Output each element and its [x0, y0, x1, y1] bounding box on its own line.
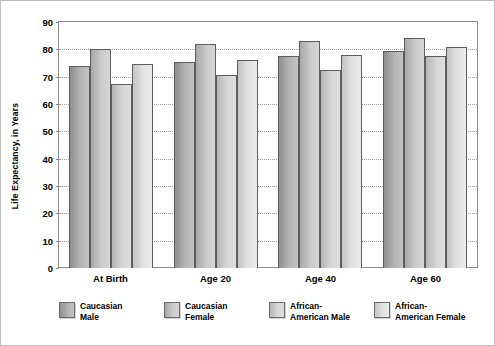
y-tick-label: 90	[42, 17, 53, 28]
bar[interactable]	[383, 51, 404, 268]
chart-figure: Life Expectancy, in Years 90807060504030…	[0, 0, 495, 346]
bar-group	[373, 22, 478, 268]
legend-label: Caucasian Female	[185, 301, 228, 323]
bar-group-bars	[69, 22, 153, 268]
legend-swatch-icon	[59, 302, 75, 318]
bar[interactable]	[404, 38, 425, 268]
y-tick-label: 0	[48, 263, 53, 274]
bar[interactable]	[132, 64, 153, 268]
y-tick-label: 70	[42, 71, 53, 82]
legend-swatch-icon	[269, 302, 285, 318]
x-axis-label: Age 60	[373, 273, 478, 284]
bar[interactable]	[299, 41, 320, 268]
y-axis-title: Life Expectancy, in Years	[10, 56, 20, 256]
bar-group	[59, 22, 164, 268]
bar[interactable]	[320, 70, 341, 268]
bar-group-bars	[278, 22, 362, 268]
bar-groups	[59, 22, 477, 268]
x-axis-labels: At BirthAge 20Age 40Age 60	[58, 273, 478, 284]
legend-item[interactable]: Caucasian Female	[164, 301, 269, 323]
y-tick-label: 50	[42, 126, 53, 137]
bar[interactable]	[216, 75, 237, 268]
bar[interactable]	[195, 44, 216, 268]
bar[interactable]	[69, 66, 90, 268]
bar[interactable]	[174, 62, 195, 268]
chart-legend: Caucasian MaleCaucasian FemaleAfrican- A…	[59, 301, 479, 323]
legend-item[interactable]: Caucasian Male	[59, 301, 164, 323]
y-tick-label: 10	[42, 235, 53, 246]
bar-group-bars	[174, 22, 258, 268]
bar-group	[164, 22, 269, 268]
legend-swatch-icon	[164, 302, 180, 318]
legend-label: African- American Female	[395, 301, 465, 323]
y-tick-mark	[56, 268, 59, 269]
bar[interactable]	[446, 47, 467, 268]
y-tick-label: 60	[42, 99, 53, 110]
legend-label: African- American Male	[290, 301, 350, 323]
plot-area: 9080706050403020100	[58, 21, 478, 268]
bar[interactable]	[425, 56, 446, 268]
bar[interactable]	[278, 56, 299, 268]
y-tick-label: 80	[42, 44, 53, 55]
legend-item[interactable]: African- American Female	[374, 301, 479, 323]
y-tick-label: 30	[42, 181, 53, 192]
x-axis-label: Age 20	[163, 273, 268, 284]
bar[interactable]	[237, 60, 258, 268]
x-axis-label: At Birth	[58, 273, 163, 284]
bar[interactable]	[341, 55, 362, 268]
bar-group	[268, 22, 373, 268]
y-tick-label: 20	[42, 208, 53, 219]
bar[interactable]	[111, 84, 132, 269]
legend-item[interactable]: African- American Male	[269, 301, 374, 323]
bar[interactable]	[90, 49, 111, 268]
legend-label: Caucasian Male	[80, 301, 123, 323]
bar-group-bars	[383, 22, 467, 268]
x-axis-label: Age 40	[268, 273, 373, 284]
legend-swatch-icon	[374, 302, 390, 318]
y-tick-label: 40	[42, 153, 53, 164]
